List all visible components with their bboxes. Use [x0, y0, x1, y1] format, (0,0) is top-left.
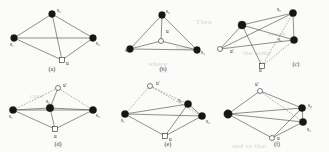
- graph-node-s2: [49, 11, 56, 18]
- vertex-label-s2: s₂: [308, 102, 312, 108]
- graph-canvas-c: s₂s₃u′u: [215, 0, 329, 76]
- graph-node-s2: [298, 104, 305, 111]
- graph-node-uprime: [148, 84, 153, 89]
- figure-root: Thenbreakhencethe samewherecaseofand so …: [0, 0, 329, 152]
- panel-caption-wrap-a: (a): [37, 63, 67, 75]
- panel-caption-e: (e): [165, 140, 172, 148]
- vertex-label-uprime: u′: [63, 82, 67, 88]
- vertex-label-u: u: [166, 28, 169, 34]
- graph-edge-s1-s2: [14, 14, 52, 38]
- graph-edge-s1-s2: [242, 13, 293, 25]
- graph-edge-s2-u: [161, 15, 162, 41]
- vertex-label-uprime: u′: [156, 80, 160, 86]
- graph-edge-uprime-s3: [150, 86, 202, 116]
- graph-node-uprime: [258, 89, 263, 94]
- vertex-label-uprime: u′: [230, 48, 234, 54]
- panel-caption-f: (f): [274, 140, 280, 148]
- graph-edge-uprime-s3: [58, 88, 93, 110]
- graph-node-s2: [46, 104, 54, 112]
- graph-edge-u-s2: [272, 108, 302, 138]
- graph-edge-s1-s2: [130, 15, 162, 49]
- graph-node-s2: [289, 9, 296, 16]
- graph-node-s2: [159, 12, 166, 19]
- vertex-label-uprime: u′: [255, 81, 259, 87]
- graph-edge-s1-uprime: [228, 91, 260, 114]
- vertex-label-s3: s₃: [201, 49, 205, 55]
- graph-node-s1: [238, 21, 246, 29]
- graph-edge-uprime-s2: [260, 91, 302, 108]
- graph-edge-u-s3: [55, 110, 93, 129]
- graph-node-s1: [224, 110, 232, 118]
- graph-edge-s1-s3: [130, 49, 197, 50]
- graph-edge-s1-uprime: [220, 25, 242, 49]
- graph-edge-s1-uprime: [125, 86, 150, 114]
- vertex-label-s1: s₁: [9, 113, 13, 119]
- vertex-label-s2: s₂: [277, 6, 281, 12]
- graph-edge-s1-u: [14, 38, 62, 60]
- graph-edge-s1-s2: [125, 104, 188, 114]
- vertex-label-s2: s₂: [57, 7, 61, 13]
- graph-edge-uprime-s3: [260, 91, 303, 122]
- graph-edge-s3-u: [161, 41, 197, 50]
- graph-node-s3: [290, 36, 297, 43]
- graph-node-u: [53, 127, 58, 132]
- graph-node-u: [59, 57, 64, 62]
- panel-caption-wrap-e: (e): [153, 138, 183, 150]
- vertex-label-s3: s₃: [307, 126, 311, 132]
- graph-node-u: [159, 39, 164, 44]
- vertex-label-s1: s₁: [10, 41, 14, 47]
- graph-node-uprime: [56, 86, 61, 91]
- vertex-label-s1: s₁: [121, 117, 125, 123]
- graph-edge-s1-s2: [228, 108, 302, 114]
- graph-edge-s1-u: [125, 114, 165, 136]
- graph-edge-s2-s3: [52, 14, 93, 38]
- vertex-label-s2: s₂: [178, 97, 182, 103]
- graph-node-s2: [184, 100, 191, 107]
- graph-node-s3: [194, 47, 201, 54]
- graph-edge-uprime-s2: [150, 86, 188, 104]
- vertex-label-s3: s₃: [96, 112, 100, 118]
- graph-edge-s1-u: [242, 25, 262, 66]
- graph-edge-u-s2: [165, 104, 188, 136]
- graph-edge-s3-u: [62, 38, 93, 60]
- graph-edge-s1-u: [228, 114, 272, 138]
- panel-caption-wrap-f: (f): [262, 138, 292, 150]
- panel-caption-wrap-c: (c): [281, 58, 311, 70]
- graph-node-s3: [198, 112, 205, 119]
- graph-edge-s1-s3: [242, 25, 294, 40]
- panel-caption-wrap-b: (b): [148, 63, 178, 75]
- vertex-label-s3: s₃: [206, 118, 210, 124]
- vertex-label-s3: s₃: [96, 40, 100, 46]
- vertex-label-s1: s₁: [125, 47, 129, 53]
- graph-node-uprime: [218, 47, 223, 52]
- panel-caption-c: (c): [293, 60, 300, 68]
- panel-caption-wrap-d: (d): [43, 138, 73, 150]
- graph-edge-uprime-s2: [220, 13, 293, 49]
- graph-edge-u-s3: [165, 116, 202, 136]
- graph-edge-s2-s3: [293, 13, 294, 40]
- panel-caption-b: (b): [159, 65, 166, 73]
- vertex-label-s2: s₂: [46, 98, 50, 104]
- graph-edge-s2-u: [52, 14, 62, 60]
- vertex-label-u: u: [259, 67, 262, 73]
- panel-caption-a: (a): [49, 65, 56, 73]
- graph-edge-s1-s3: [125, 114, 202, 116]
- panel-caption-d: (d): [54, 140, 61, 148]
- vertex-label-s2: s₂: [166, 8, 170, 14]
- graph-node-s3: [299, 118, 306, 125]
- vertex-label-s3: s₃: [278, 36, 282, 42]
- graph-edge-s1-u: [130, 41, 161, 49]
- graph-edge-s1-u: [13, 110, 55, 129]
- graph-panel-c: s₂s₃u′u: [215, 0, 329, 76]
